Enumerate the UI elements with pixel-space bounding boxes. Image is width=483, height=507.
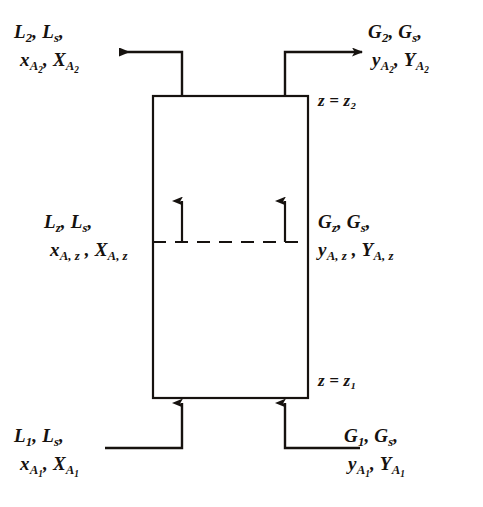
label-gas-out-top: G2, Gs, yA2, YA2 xyxy=(368,22,429,69)
label-gas-at-z: Gz, Gs, yA, z , YA, z xyxy=(318,212,394,259)
label-liquid-at-z: Lz, Ls, xA, z , XA, z xyxy=(44,212,128,259)
label-plane-z1: z = z₁ xyxy=(318,372,357,389)
label-liquid-out-top: L2, Ls, xA2, XA2 xyxy=(14,22,79,69)
label-gas-at-z-compositions: yA, z , YA, z xyxy=(318,240,394,259)
liquid-inlet-pipe-bottom-left xyxy=(105,403,182,448)
liquid-outlet-pipe-top-left xyxy=(120,52,182,96)
label-gas-in-bottom-compositions: yA1, YA1 xyxy=(348,454,405,473)
label-plane-z2: z = z₂ xyxy=(318,92,357,109)
gas-outlet-pipe-top-right xyxy=(285,52,362,96)
label-liquid-in-bottom-flows: L1, Ls, xyxy=(14,426,79,445)
label-gas-at-z-flows: Gz, Gs, xyxy=(318,212,394,231)
label-liquid-out-top-flows: L2, Ls, xyxy=(14,22,79,41)
process-diagram: L2, Ls, xA2, XA2 G2, Gs, yA2, YA2 z = z₂… xyxy=(0,0,483,507)
column-body xyxy=(153,96,308,398)
label-gas-in-bottom: G1, Gs, yA1, YA1 xyxy=(344,426,405,473)
label-gas-out-top-compositions: yA2, YA2 xyxy=(372,50,429,69)
label-liquid-in-bottom: L1, Ls, xA1, XA1 xyxy=(14,426,79,473)
label-gas-in-bottom-flows: G1, Gs, xyxy=(344,426,405,445)
label-liquid-out-top-compositions: xA2, XA2 xyxy=(20,50,79,69)
label-gas-out-top-flows: G2, Gs, xyxy=(368,22,429,41)
label-liquid-at-z-compositions: xA, z , XA, z xyxy=(50,240,128,259)
label-liquid-at-z-flows: Lz, Ls, xyxy=(44,212,128,231)
label-liquid-in-bottom-compositions: xA1, XA1 xyxy=(20,454,79,473)
